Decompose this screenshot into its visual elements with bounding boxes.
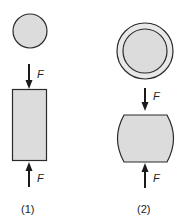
specimen-1: F F (1) [13,14,48,215]
force-arrow-up-icon [26,162,33,187]
specimen-2-side-view-barreled [118,115,174,162]
specimen-2-top-view-inner [123,29,167,73]
caption-2: (2) [137,203,150,215]
force-arrow-down-icon [142,88,149,111]
force-arrow-down-icon [26,64,33,89]
force-label-top-2: F [153,90,161,102]
specimen-1-top-view [13,14,47,48]
specimen-1-side-view [13,90,47,161]
caption-1: (1) [21,203,34,215]
force-arrow-up-icon [142,163,149,188]
force-label-bottom-2: F [153,172,161,184]
force-label-top-1: F [37,68,45,80]
specimen-2: F F (2) [117,23,174,215]
compression-diagram: F F (1) F F (2) [0,0,179,218]
force-label-bottom-1: F [37,172,45,184]
